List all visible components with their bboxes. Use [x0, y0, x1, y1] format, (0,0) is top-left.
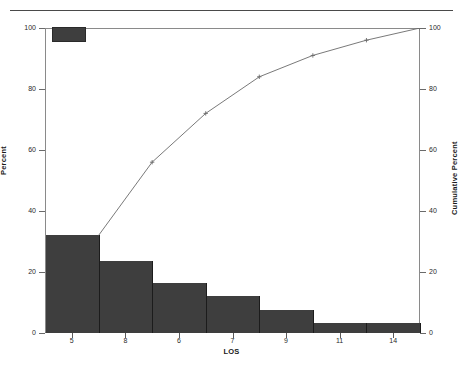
y-axis-right-tick-mark	[420, 272, 426, 273]
y-axis-left-tick-label: 60	[10, 146, 36, 153]
x-axis-tick-label: 14	[373, 337, 413, 344]
y-axis-right-tick-label: 100	[429, 24, 455, 31]
y-axis-left-tick-label: 40	[10, 207, 36, 214]
legend-swatch	[52, 27, 86, 42]
y-axis-right-title: Cumulative Percent	[450, 141, 459, 215]
y-axis-left-tick-label: 80	[10, 85, 36, 92]
y-axis-right-tick-mark	[420, 333, 426, 334]
y-axis-left-tick-label: 0	[10, 329, 36, 336]
x-axis-tick-label: 8	[105, 337, 145, 344]
x-axis-tick-label: 5	[52, 337, 92, 344]
cumulative-percent-line	[45, 28, 420, 333]
y-axis-left-tick-mark	[39, 333, 45, 334]
y-axis-right-tick-mark	[420, 150, 426, 151]
y-axis-left-tick-label: 20	[10, 268, 36, 275]
y-axis-right-tick-mark	[420, 28, 426, 29]
x-axis-title: LOS	[0, 347, 463, 356]
y-axis-right-tick-label: 20	[429, 268, 455, 275]
y-axis-right-tick-mark	[420, 211, 426, 212]
x-axis-tick-label: 7	[213, 337, 253, 344]
cumulative-point-marker	[364, 38, 368, 42]
pareto-chart-figure: 020406080100 020406080100 586791114 Perc…	[0, 0, 463, 367]
x-axis-tick-label: 6	[159, 337, 199, 344]
x-axis-tick-label: 11	[320, 337, 360, 344]
x-axis-tick-label: 9	[266, 337, 306, 344]
y-axis-left-title: Percent	[0, 146, 8, 175]
y-axis-left-tick-label: 100	[10, 24, 36, 31]
cumulative-point-marker	[418, 28, 420, 30]
cumulative-line-path	[99, 28, 420, 235]
cumulative-line-layer	[45, 28, 420, 333]
cumulative-point-marker	[311, 53, 315, 57]
y-axis-right-tick-label: 80	[429, 85, 455, 92]
y-axis-right-tick-mark	[420, 89, 426, 90]
y-axis-right-tick-label: 0	[429, 329, 455, 336]
